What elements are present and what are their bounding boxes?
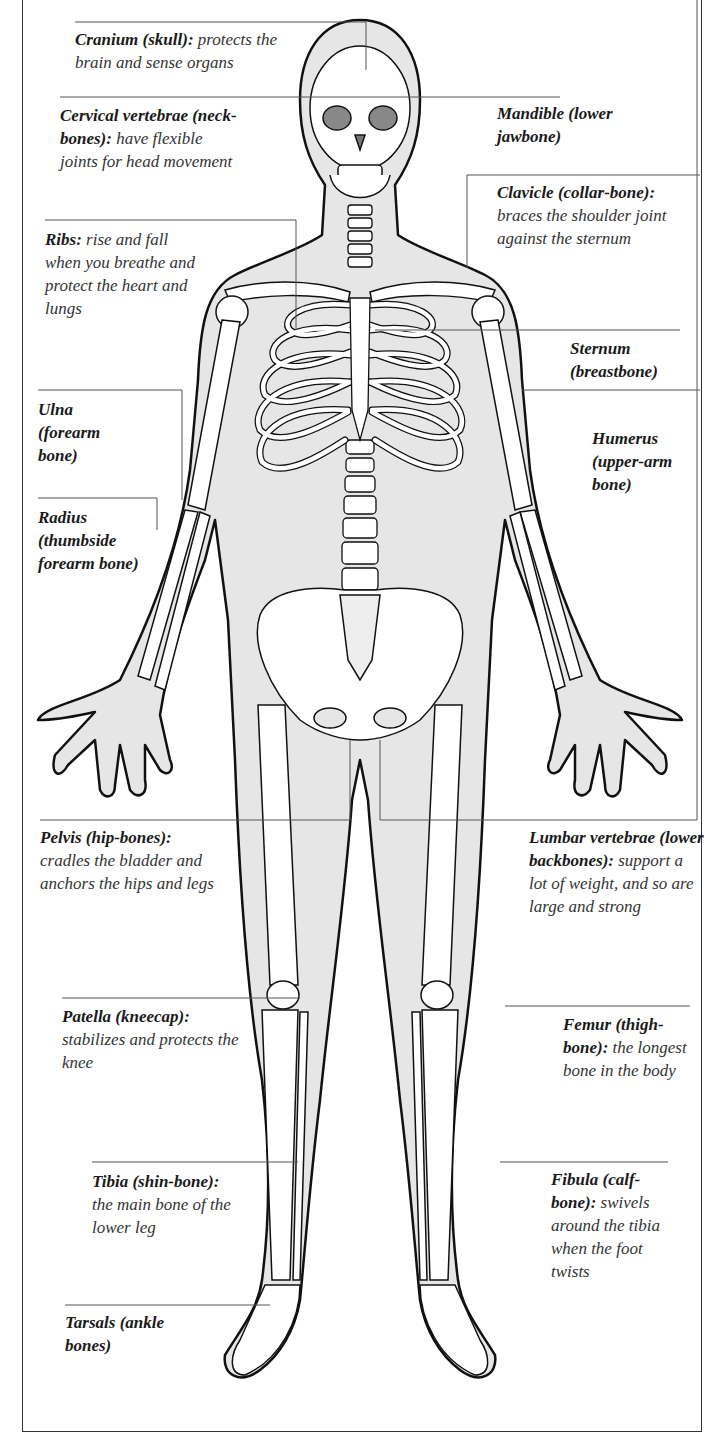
label-desc: braces the shoulder joint against the st…: [497, 206, 667, 248]
label-desc: the main bone of the lower leg: [92, 1195, 231, 1237]
label-term: Tibia (shin-bone):: [92, 1172, 219, 1191]
label-ribs: Ribs: rise and fall when you breathe and…: [45, 228, 205, 320]
label-term: Ulna (forearm bone): [38, 400, 100, 465]
label-term: Clavicle (collar-bone):: [497, 183, 655, 202]
label-radius: Radius (thumbside forearm bone): [38, 506, 148, 575]
label-term: Patella (kneecap):: [62, 1007, 190, 1026]
label-term: Sternum (breastbone): [570, 339, 658, 381]
label-clavicle: Clavicle (collar-bone): braces the shoul…: [497, 181, 702, 250]
label-desc: cradles the bladder and anchors the hips…: [40, 851, 214, 893]
label-sternum: Sternum (breastbone): [570, 337, 695, 383]
label-term: Radius (thumbside forearm bone): [38, 508, 139, 573]
label-cranium: Cranium (skull): protects the brain and …: [75, 28, 315, 74]
label-ulna: Ulna (forearm bone): [38, 398, 128, 467]
label-term: Cranium (skull):: [75, 30, 194, 49]
label-term: Ribs:: [45, 230, 82, 249]
label-cervical-vertebrae: Cervical vertebrae (neck-bones): have fl…: [60, 104, 240, 173]
label-term: Tarsals (ankle bones): [65, 1313, 164, 1355]
label-term: Mandible (lower jawbone): [497, 104, 613, 146]
label-tibia: Tibia (shin-bone): the main bone of the …: [92, 1170, 232, 1239]
label-tarsals: Tarsals (ankle bones): [65, 1311, 205, 1357]
label-femur: Femur (thigh-bone): the longest bone in …: [563, 1013, 693, 1082]
label-mandible: Mandible (lower jawbone): [497, 102, 657, 148]
label-fibula: Fibula (calf-bone): swivels around the t…: [551, 1168, 681, 1283]
label-patella: Patella (kneecap): stabilizes and protec…: [62, 1005, 242, 1074]
label-term: Humerus (upper-arm bone): [592, 429, 672, 494]
label-desc: stabilizes and protects the knee: [62, 1030, 238, 1072]
label-pelvis: Pelvis (hip-bones): cradles the bladder …: [40, 826, 225, 895]
label-lumbar-vertebrae: Lumbar vertebrae (lower backbones): supp…: [529, 826, 704, 918]
label-term: Pelvis (hip-bones):: [40, 828, 172, 847]
label-humerus: Humerus (upper-arm bone): [592, 427, 697, 496]
